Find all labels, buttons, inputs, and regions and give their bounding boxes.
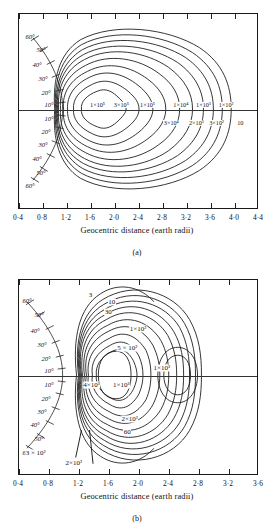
x-tick-label: 4·4 <box>253 213 263 222</box>
panel-a-lat-label: 30° <box>38 75 47 82</box>
contour-value-label: 1×10⁵ <box>140 102 156 108</box>
contour-value-label: 2×10² <box>65 460 83 467</box>
x-tick-label: 2·8 <box>193 479 203 488</box>
panel-b-lat-label: 10° <box>44 367 53 374</box>
panel-b-lat-label: 30° <box>37 408 46 415</box>
panel-a-lat-label: 20° <box>41 89 50 96</box>
panel-a-top-tick <box>115 14 116 19</box>
x-tick-label: 2·8 <box>157 213 167 222</box>
panel-b-lat-label: 50° <box>34 435 43 442</box>
panel-a-top-tick <box>19 14 20 19</box>
x-tick-label: 0·8 <box>43 479 53 488</box>
panel-a-bottom-tick <box>19 203 20 208</box>
panel-a-bottom-tick <box>43 203 44 208</box>
panel-a-top-tick <box>187 14 188 19</box>
x-tick-label: 0·4 <box>13 213 23 222</box>
panel-a-lat-label: 20° <box>41 128 50 135</box>
x-tick-label: 1·6 <box>103 479 113 488</box>
panel-b-axis-title: Geocentric distance (earth radii) <box>0 492 274 501</box>
panel-b-top-tick <box>229 280 230 285</box>
contour-value-label: 3 <box>88 291 93 298</box>
x-tick-label: 1·6 <box>85 213 95 222</box>
panel-b-bottom-tick <box>79 469 80 474</box>
panel-b-letter: (b) <box>0 514 274 523</box>
panel-a-plot-area: 60° 50° 40° 30° 20° 10° 10° 20° 30° 40° … <box>18 13 258 209</box>
panel-b-top-tick <box>109 280 110 285</box>
panel-b-top-tick <box>139 280 140 285</box>
panel-b-latitude-arc <box>19 280 257 474</box>
panel-b-top-tick <box>19 280 20 285</box>
panel-a-lat-label: 50° <box>36 169 45 176</box>
panel-b: 60° 50° 40° 30° 20° 10° 10° 20° 30° 40° … <box>0 265 274 529</box>
x-tick-label: 2·0 <box>109 213 119 222</box>
panel-a-latitude-arc <box>19 14 257 208</box>
x-tick-label: 0·4 <box>13 479 23 488</box>
x-tick-label: 2·4 <box>163 479 173 488</box>
x-tick-label: 3·2 <box>181 213 191 222</box>
panel-b-lat-label: 40° <box>30 327 39 334</box>
panel-a-lat-label: 40° <box>32 61 41 68</box>
panel-b-bottom-tick <box>229 469 230 474</box>
panel-a-bottom-tick <box>67 203 68 208</box>
figure-container: 60° 50° 40° 30° 20° 10° 10° 20° 30° 40° … <box>0 0 274 529</box>
panel-a: 60° 50° 40° 30° 20° 10° 10° 20° 30° 40° … <box>0 0 274 265</box>
contour-value-label: 1×10³ <box>153 365 171 372</box>
panel-a-bottom-tick <box>115 203 116 208</box>
contour-value-label: 3×10² <box>209 120 225 126</box>
panel-b-bottom-tick <box>19 469 20 474</box>
panel-a-top-tick <box>67 14 68 19</box>
panel-a-bottom-tick <box>91 203 92 208</box>
panel-b-top-tick <box>79 280 80 285</box>
panel-a-lat-label: 10° <box>44 115 53 122</box>
contour-value-label: 3×10⁴ <box>163 120 179 126</box>
panel-a-bottom-tick <box>163 203 164 208</box>
panel-b-lat-label: 20° <box>41 395 50 402</box>
contour-value-label: 5 × 10² <box>117 344 138 351</box>
panel-a-equator-line <box>19 110 257 111</box>
x-tick-label: 2·4 <box>133 213 143 222</box>
panel-b-top-tick <box>199 280 200 285</box>
contour-value-label: 1×10² <box>218 102 234 108</box>
panel-a-lat-label: 60° <box>25 182 34 189</box>
contour-value-label: 2×10³ <box>188 120 204 126</box>
panel-b-plot-area: 60° 50° 40° 30° 20° 10° 10° 20° 30° 40° … <box>18 279 258 475</box>
contour-value-label: 1×10³ <box>196 102 212 108</box>
x-tick-label: 1·2 <box>61 213 71 222</box>
x-tick-label: 3·6 <box>253 479 263 488</box>
panel-b-top-tick <box>49 280 50 285</box>
panel-b-bottom-tick <box>139 469 140 474</box>
panel-a-lat-label: 10° <box>44 101 53 108</box>
panel-b-lat-label: 20° <box>41 355 50 362</box>
contour-value-label: 1×10⁴ <box>173 102 189 108</box>
panel-b-x-tick-labels: 0·40·81·21·62·02·42·83·23·6 <box>0 479 274 491</box>
panel-b-bottom-tick <box>49 469 50 474</box>
x-tick-label: 3·6 <box>205 213 215 222</box>
panel-a-lat-label: 50° <box>36 46 45 53</box>
contour-value-label: 3 × 10² <box>25 449 46 456</box>
panel-b-lat-label: 50° <box>34 311 43 318</box>
contour-value-label: 4×10³ <box>83 381 101 388</box>
panel-b-lat-label: 10° <box>44 381 53 388</box>
panel-b-lat-label: 40° <box>30 421 39 428</box>
panel-a-lat-label: 60° <box>25 33 34 40</box>
contour-value-label: 10 <box>237 120 244 126</box>
panel-a-top-tick <box>91 14 92 19</box>
panel-b-lat-label: 60° <box>22 297 31 304</box>
panel-a-top-tick <box>139 14 140 19</box>
contour-value-label: 2×10² <box>121 415 139 422</box>
panel-a-letter: (a) <box>0 248 274 257</box>
panel-b-equator-line <box>19 376 257 377</box>
panel-a-top-tick <box>163 14 164 19</box>
panel-a-top-tick <box>43 14 44 19</box>
panel-a-top-tick <box>235 14 236 19</box>
panel-a-bottom-tick <box>211 203 212 208</box>
contour-value-label: 30 <box>104 309 112 316</box>
x-tick-label: 0·8 <box>37 213 47 222</box>
panel-b-bottom-tick <box>109 469 110 474</box>
contour-value-label: 60 <box>123 429 131 436</box>
panel-b-lat-label: 30° <box>37 341 46 348</box>
x-tick-label: 2·0 <box>133 479 143 488</box>
contour-value-label: 1×10⁵ <box>90 102 106 108</box>
contour-value-label: 10 <box>108 299 116 306</box>
panel-a-x-tick-labels: 0·40·81·21·62·02·42·83·23·64·04·4 <box>0 213 274 225</box>
